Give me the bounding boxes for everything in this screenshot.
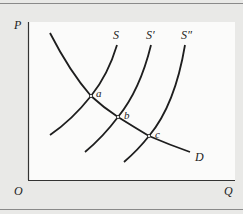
point-label-b: b bbox=[124, 109, 130, 121]
x-axis-label: Q bbox=[224, 185, 233, 197]
point-label-c: c bbox=[155, 128, 160, 140]
origin-label: O bbox=[14, 185, 23, 197]
point-c-marker bbox=[147, 134, 150, 137]
curve-label-s-double-prime: S″ bbox=[181, 29, 192, 41]
point-a-marker bbox=[89, 94, 92, 97]
curve-label-s: S bbox=[113, 29, 119, 41]
supply-curve-s bbox=[50, 45, 117, 135]
supply-curve-s-double-prime bbox=[124, 45, 185, 162]
curve-label-s-prime: S′ bbox=[146, 29, 155, 41]
curve-label-d: D bbox=[195, 151, 204, 163]
supply-demand-diagram bbox=[0, 0, 243, 214]
y-axis-label: P bbox=[14, 19, 21, 31]
point-b-marker bbox=[116, 115, 119, 118]
frame-bottom-rule bbox=[0, 209, 243, 210]
demand-curve-d bbox=[50, 33, 190, 152]
point-label-a: a bbox=[96, 87, 102, 99]
